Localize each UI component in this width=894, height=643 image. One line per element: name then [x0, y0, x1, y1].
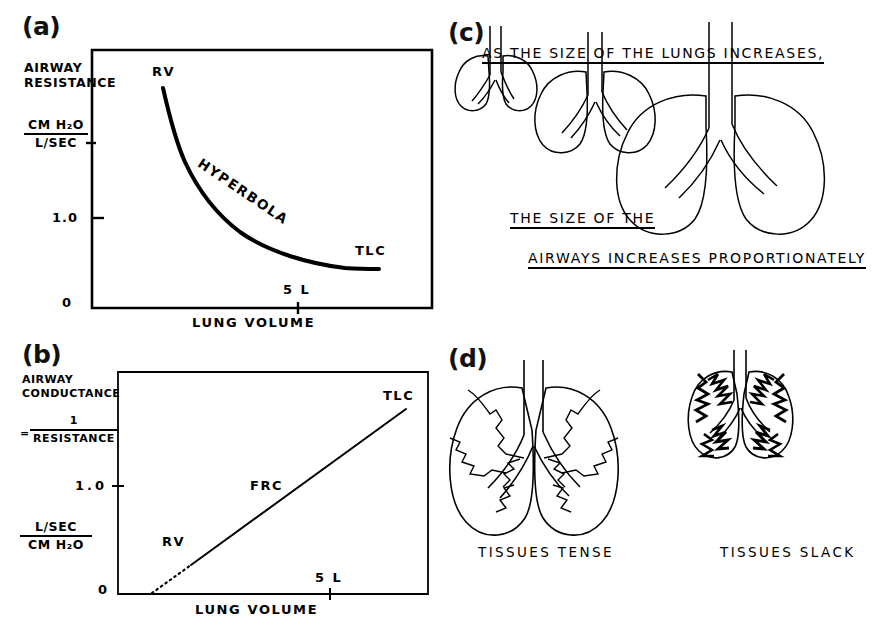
- panel-b-conductance-line: [191, 409, 406, 565]
- panel-a-label-rv: RV: [152, 64, 175, 79]
- panel-b-plot: [0, 330, 450, 643]
- panel-b-label-frc: FRC: [250, 478, 283, 493]
- figure-root: (a) AIRWAY RESISTANCE CM H₂O L/SEC 1.0 0…: [0, 0, 894, 643]
- panel-b-airway-conductance: (b) AIRWAY CONDUCTANCE = 1 RESISTANCE 1.…: [0, 330, 450, 643]
- panel-b-label-tlc: TLC: [383, 388, 414, 403]
- panel-c-lung-size-airways: (c) AS THE SIZE OF THE LUNGS INCREASES, …: [440, 0, 894, 330]
- panel-a-hyperbola-curve: [163, 88, 379, 269]
- lung-slack-icon: [688, 350, 793, 458]
- lung-small-icon: [455, 26, 537, 111]
- panel-d-tissue-tension: (d) TISSUES TENSE TISSUES SLACK: [440, 330, 894, 643]
- panel-c-lung-drawings: [440, 0, 894, 330]
- panel-a-label-tlc: TLC: [355, 243, 386, 258]
- panel-a-plot: [0, 0, 450, 330]
- lung-tense-icon: [450, 360, 618, 535]
- panel-d-lung-drawings: [440, 330, 894, 643]
- lung-medium-icon: [535, 32, 655, 153]
- panel-a-airway-resistance: (a) AIRWAY RESISTANCE CM H₂O L/SEC 1.0 0…: [0, 0, 450, 330]
- panel-b-label-rv: RV: [162, 534, 185, 549]
- panel-b-conductance-extrapolation: [152, 565, 191, 593]
- lung-large-icon: [617, 22, 825, 234]
- panel-a-frame: [92, 50, 432, 308]
